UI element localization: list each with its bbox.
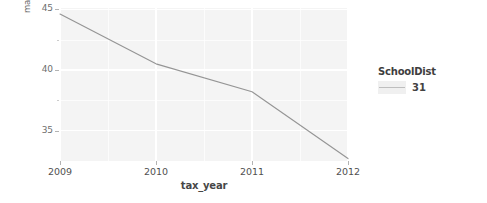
x-axis-tick-mark — [348, 161, 349, 165]
x-axis-tick-label: 2011 — [230, 166, 274, 177]
y-axis-tick-mark — [55, 9, 59, 10]
legend-item[interactable]: 31 — [378, 81, 483, 94]
y-axis-tick-label: 45 — [31, 3, 53, 13]
x-axis-tick-mark — [252, 161, 253, 165]
legend-title: SchoolDist — [378, 66, 483, 77]
x-axis-tick-label: 2009 — [38, 166, 82, 177]
legend-item-label: 31 — [412, 82, 426, 93]
series-line-31 — [60, 14, 348, 159]
y-axis-tick-label: 40 — [31, 64, 53, 74]
data-series-layer — [60, 8, 348, 161]
chart-plot-area: market_value_per_sqft 354045 20092010201… — [0, 0, 487, 203]
x-axis-tick-label: 2012 — [326, 166, 370, 177]
x-axis-tick-mark — [60, 161, 61, 165]
y-axis-minor-tick-mark — [57, 100, 59, 101]
x-axis-tick-labels: 2009201020112012 — [0, 161, 487, 181]
x-axis-title: tax_year — [60, 180, 348, 191]
y-axis-tick-label: 35 — [31, 125, 53, 135]
x-axis-tick-mark — [156, 161, 157, 165]
line-key-icon — [378, 81, 406, 94]
legend-key-stroke — [379, 87, 405, 88]
x-axis-tick-label: 2010 — [134, 166, 178, 177]
legend: SchoolDist 31 — [378, 66, 483, 94]
y-axis-tick-mark — [55, 70, 59, 71]
legend-entries: 31 — [378, 81, 483, 94]
y-axis-minor-tick-mark — [57, 40, 59, 41]
y-axis-tick-mark — [55, 131, 59, 132]
